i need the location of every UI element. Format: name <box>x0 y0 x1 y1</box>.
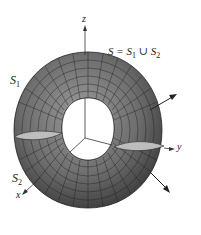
y-axis-arrowhead <box>169 147 175 151</box>
s2-label: S2 <box>12 172 22 187</box>
union-eq-sub2: 2 <box>156 51 160 60</box>
torus-hole <box>62 98 114 160</box>
union-eq-main: S = S <box>108 45 132 57</box>
torus-diagram <box>0 0 201 235</box>
s1-sub: 1 <box>16 80 20 89</box>
normal-vector-upper-arrowhead <box>169 94 177 100</box>
union-equation-label: S = S1 ∪ S2 <box>108 46 160 60</box>
s1-label: S1 <box>10 74 20 89</box>
y-axis-label: y <box>177 142 181 152</box>
x-axis-label: x <box>16 190 20 200</box>
z-axis-label: z <box>82 14 86 24</box>
s2-sub: 2 <box>18 178 22 187</box>
z-axis-arrowhead <box>83 25 87 31</box>
union-eq-union: ∪ S <box>136 45 156 57</box>
